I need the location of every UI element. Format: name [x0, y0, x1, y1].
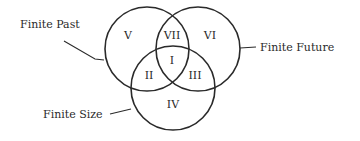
leader-line-finite-size	[110, 109, 131, 114]
region-label-v: V	[123, 29, 133, 42]
region-label-vii: VII	[163, 29, 181, 42]
venn-diagram: V VII VI I II III IV Finite Past Finite …	[0, 0, 360, 141]
set-label-finite-past: Finite Past	[20, 18, 80, 31]
leader-line-finite-past	[64, 41, 104, 60]
region-label-vi: VI	[203, 29, 216, 42]
set-label-finite-size: Finite Size	[43, 108, 103, 121]
region-label-iv: IV	[167, 98, 180, 111]
region-label-ii: II	[145, 69, 154, 82]
region-label-i: I	[170, 54, 174, 67]
set-label-finite-future: Finite Future	[260, 41, 334, 54]
region-label-iii: III	[188, 69, 201, 82]
leader-line-finite-future	[240, 47, 256, 48]
